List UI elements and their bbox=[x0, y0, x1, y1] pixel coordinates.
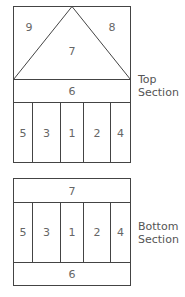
region-8: 8 bbox=[109, 21, 116, 34]
band-6: 6 bbox=[69, 268, 76, 281]
column-label: 3 bbox=[43, 226, 50, 239]
bottom-section: 7 5 3 1 2 4 6 Bottom Section bbox=[14, 179, 179, 286]
triangle-sides bbox=[14, 7, 131, 80]
column-label: 3 bbox=[43, 127, 50, 140]
band-7: 7 bbox=[69, 185, 76, 198]
column-label: 4 bbox=[117, 226, 124, 239]
column-label: 2 bbox=[94, 127, 101, 140]
column-label: 5 bbox=[20, 127, 27, 140]
section-diagram: 9 7 8 6 5 3 1 2 4 Top Section 7 5 3 1 2 … bbox=[0, 0, 185, 297]
region-7: 7 bbox=[69, 45, 76, 58]
column-label: 4 bbox=[117, 127, 124, 140]
bottom-section-label-line1: Bottom bbox=[138, 220, 178, 233]
bottom-section-label-line2: Section bbox=[138, 233, 179, 246]
top-section-label-line2: Section bbox=[138, 86, 179, 99]
column-label: 2 bbox=[94, 226, 101, 239]
band-6: 6 bbox=[69, 85, 76, 98]
top-section: 9 7 8 6 5 3 1 2 4 Top Section bbox=[14, 7, 179, 163]
column-label: 1 bbox=[69, 226, 76, 239]
top-section-label-line1: Top bbox=[137, 73, 157, 86]
region-9: 9 bbox=[26, 21, 33, 34]
column-label: 1 bbox=[69, 127, 76, 140]
column-label: 5 bbox=[20, 226, 27, 239]
